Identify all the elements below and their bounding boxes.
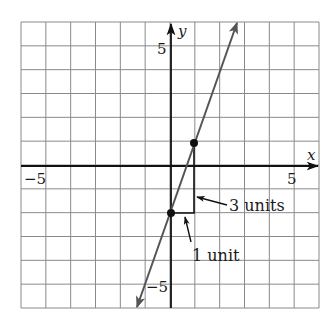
run-annotation-arrow xyxy=(185,217,191,242)
point-1-1 xyxy=(190,139,198,147)
rise-annotation-label: 3 units xyxy=(229,196,285,215)
y-tick-label-neg5: −5 xyxy=(146,278,168,296)
x-tick-label-5: 5 xyxy=(287,170,297,188)
rise-annotation-arrow xyxy=(197,197,227,205)
y-axis-label: y xyxy=(177,22,187,40)
x-tick-label-neg5: −5 xyxy=(24,170,46,188)
y-tick-label-5: 5 xyxy=(157,40,167,58)
run-annotation-label: 1 unit xyxy=(192,246,240,265)
x-axis-label: x xyxy=(307,146,316,164)
point-0-neg2 xyxy=(167,209,175,217)
grid-lines xyxy=(21,22,319,308)
coordinate-plane-chart: x y −5 5 5 −5 3 units 1 unit xyxy=(0,0,330,325)
